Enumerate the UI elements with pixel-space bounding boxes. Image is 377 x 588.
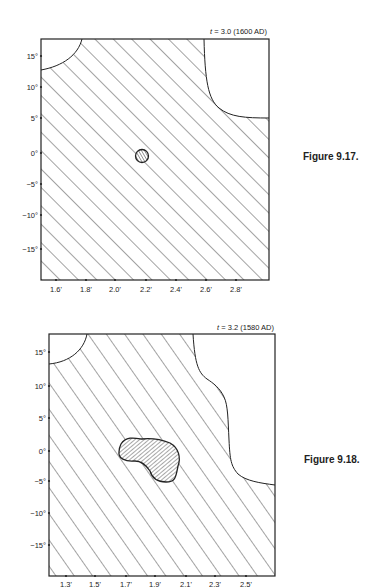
y-tick-label: −15° [30,541,46,550]
time-label: t = 3.2 (1580 AD) [217,323,274,332]
x-tick-label: 2.2' [140,285,152,294]
y-tick-label: 0° [31,149,38,158]
y-tick-label: −5° [26,180,38,189]
y-tick-label: −5° [34,477,46,486]
y-tick-label: −15° [22,245,38,254]
figure-9-17: 15° 10° 5° 0° −5° −10° −15° 1.6' 1.8' 2.… [0,0,377,295]
y-tick-label: 5° [31,114,38,123]
y-tick-label: 0° [39,447,46,456]
x-tick-label: 2.8' [230,285,242,294]
y-axis: 15° 10° 5° 0° −5° −10° −15° [30,348,50,550]
x-tick-label: 1.5' [89,580,101,588]
y-tick-label: 5° [39,414,46,423]
hatched-region [41,39,269,280]
x-tick-label: 2.5' [240,580,252,588]
core-circle [136,150,149,163]
y-tick-label: 15° [27,52,38,61]
x-axis: 1.3' 1.5' 1.7' 1.9' 2.1' 2.3' 2.5' [60,575,252,588]
x-tick-label: 2.3' [209,580,221,588]
y-axis: 15° 10° 5° 0° −5° −10° −15° [22,52,42,254]
y-tick-label: −10° [22,211,38,220]
y-tick-label: 10° [27,83,38,92]
x-tick-label: 2.0' [109,285,121,294]
y-tick-label: 10° [35,382,46,391]
x-tick-label: 2.1' [180,580,192,588]
x-axis: 1.6' 1.8' 2.0' 2.2' 2.4' 2.6' 2.8' [50,279,242,294]
y-tick-label: 15° [35,348,46,357]
figure-caption: Figure 9.17. [303,151,359,162]
x-tick-label: 1.8' [80,285,92,294]
figure-caption: Figure 9.18. [304,454,360,465]
figure-9-18: 15° 10° 5° 0° −5° −10° −15° 1.3' 1.5' 1.… [0,295,377,588]
x-tick-label: 2.6' [200,285,212,294]
figure-9-18-plot: 15° 10° 5° 0° −5° −10° −15° 1.3' 1.5' 1.… [0,295,377,588]
x-tick-label: 1.9' [149,580,161,588]
x-tick-label: 1.3' [60,580,72,588]
time-label: t = 3.0 (1600 AD) [210,27,267,36]
y-tick-label: −10° [30,509,46,518]
x-tick-label: 1.7' [120,580,132,588]
figure-9-17-plot: 15° 10° 5° 0° −5° −10° −15° 1.6' 1.8' 2.… [0,0,377,295]
x-tick-label: 1.6' [50,285,62,294]
x-tick-label: 2.4' [170,285,182,294]
